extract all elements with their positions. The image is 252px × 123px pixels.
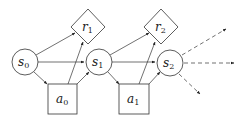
node-s2: s2: [157, 50, 183, 76]
node-r2: r2: [144, 9, 178, 44]
edge-s0-r1: [36, 33, 75, 55]
edge-s1-r2: [110, 33, 149, 55]
edge-a1-r2: [139, 42, 155, 84]
edge-s2-out-up: [182, 29, 226, 55]
edge-a0-r1: [68, 42, 83, 84]
node-s0: s0: [12, 49, 38, 75]
edge-a0-s1: [77, 72, 89, 84]
edge-s1-a1: [108, 72, 119, 84]
influence-diagram: s0 s1 s2 a0 a1 r1 r2: [0, 0, 252, 123]
edge-a1-s2: [149, 72, 160, 84]
node-a1: a1: [119, 84, 149, 114]
edge-s2-out-down: [179, 74, 200, 94]
node-a0: a0: [48, 84, 77, 114]
edge-s0-a0: [34, 72, 47, 84]
node-s1: s1: [86, 49, 112, 75]
node-r1: r1: [71, 9, 105, 44]
